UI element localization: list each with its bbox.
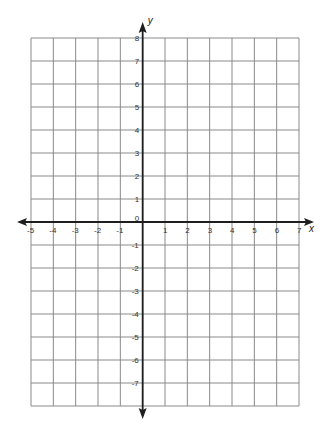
x-tick-label: -2 <box>94 226 102 235</box>
x-tick-label: 3 <box>208 226 213 235</box>
x-tick-label: -5 <box>27 226 35 235</box>
y-tick-label: 3 <box>135 149 140 158</box>
y-tick-label: 6 <box>135 80 140 89</box>
x-tick-label: 5 <box>252 226 257 235</box>
y-tick-label: 2 <box>135 172 140 181</box>
y-tick-label: -5 <box>132 333 140 342</box>
y-tick-label: -2 <box>132 264 140 273</box>
x-tick-label: 1 <box>163 226 168 235</box>
y-tick-label: -6 <box>132 356 140 365</box>
y-axis-label: y <box>147 15 154 26</box>
y-tick-label: 8 <box>135 34 140 43</box>
x-tick-label: 2 <box>185 226 190 235</box>
x-tick-label: 4 <box>230 226 235 235</box>
x-tick-label: -1 <box>116 226 124 235</box>
y-tick-label: 1 <box>135 195 140 204</box>
y-tick-label: 7 <box>135 57 140 66</box>
y-tick-label: 5 <box>135 103 140 112</box>
y-tick-label: -7 <box>132 379 140 388</box>
x-tick-label: -3 <box>72 226 80 235</box>
x-tick-label: 7 <box>297 226 302 235</box>
x-tick-label: -4 <box>49 226 57 235</box>
x-axis-label: x <box>308 223 315 234</box>
y-tick-label: -4 <box>132 310 140 319</box>
origin-label: 0 <box>135 214 140 223</box>
y-tick-label: -1 <box>132 241 140 250</box>
y-tick-label: 4 <box>135 126 140 135</box>
y-tick-label: -3 <box>132 287 140 296</box>
x-tick-label: 6 <box>275 226 280 235</box>
coordinate-plane: -5-4-3-2-1123456787654321-1-2-3-4-5-6-7 … <box>0 0 328 435</box>
